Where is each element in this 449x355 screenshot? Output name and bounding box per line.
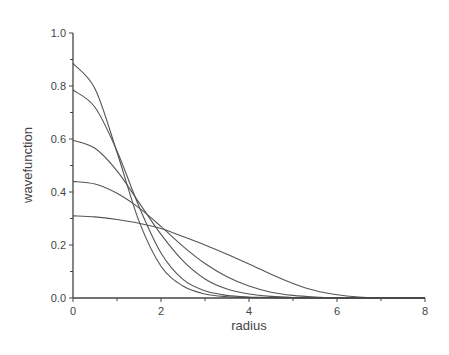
curves: [73, 63, 425, 298]
series-line-curve-1: [73, 63, 425, 298]
series-line-curve-2: [73, 90, 425, 298]
series-line-curve-3: [73, 140, 425, 298]
x-axis-label: radius: [231, 318, 267, 333]
y-axis-label: wavefunction: [20, 127, 35, 204]
y-tick-label: 0.4: [51, 186, 66, 198]
y-tick-label: 1.0: [51, 27, 66, 39]
x-tick-label: 2: [158, 305, 164, 317]
x-tick-label: 4: [246, 305, 252, 317]
x-tick-label: 0: [70, 305, 76, 317]
y-tick-label: 0.0: [51, 292, 66, 304]
axes: 024680.00.20.40.60.81.0: [51, 27, 428, 317]
y-tick-label: 0.6: [51, 133, 66, 145]
x-tick-label: 8: [422, 305, 428, 317]
y-tick-label: 0.2: [51, 239, 66, 251]
x-tick-label: 6: [334, 305, 340, 317]
series-line-curve-4: [73, 181, 425, 298]
chart: 024680.00.20.40.60.81.0 radius wavefunct…: [0, 0, 449, 355]
y-tick-label: 0.8: [51, 80, 66, 92]
